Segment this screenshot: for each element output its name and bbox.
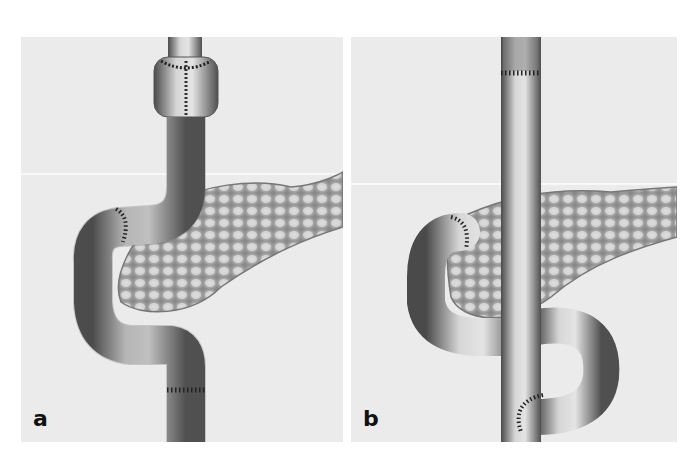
- illustration-b: [351, 37, 677, 442]
- vertical-bowel: [501, 37, 541, 442]
- bowel-loop-right: [536, 326, 601, 417]
- panel-label-a: a: [33, 408, 48, 430]
- panel-label-b: b: [363, 408, 379, 430]
- illustration-a: [21, 37, 343, 442]
- figure-panel-a: a: [21, 37, 343, 442]
- figure-panel-b: b: [351, 37, 677, 442]
- pancreas: [447, 187, 677, 318]
